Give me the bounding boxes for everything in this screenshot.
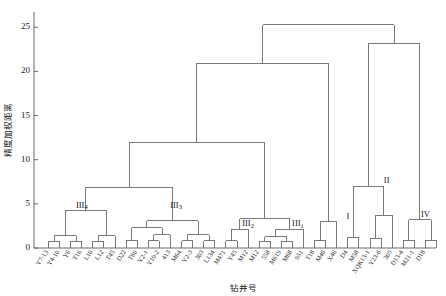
leaf-label: Y2-3 xyxy=(180,248,194,264)
dendrogram-link xyxy=(263,25,395,64)
dendrogram-link xyxy=(353,186,383,237)
y-tick-label: 10 xyxy=(21,154,31,164)
dendrogram-link xyxy=(320,222,337,248)
y-tick-label: 20 xyxy=(21,65,31,75)
dendrogram-link xyxy=(281,241,292,248)
cluster-label: III2 xyxy=(242,218,254,229)
dendrogram-link xyxy=(126,240,137,248)
dendrogram-link xyxy=(231,229,248,248)
cluster-label: III1 xyxy=(292,218,304,229)
leaf-label: M12 xyxy=(247,249,260,263)
leaf-label: L10 xyxy=(82,248,94,261)
dendrogram-link xyxy=(265,237,287,242)
dendrogram-link xyxy=(259,241,270,248)
cluster-label: IV xyxy=(421,209,431,219)
dendrogram-link xyxy=(204,241,215,248)
dendrogram-link xyxy=(276,229,304,248)
dendrogram-link xyxy=(129,143,264,219)
leaf-label: T45 xyxy=(104,248,116,261)
y-tick-label: 0 xyxy=(26,242,31,252)
leaf-label: D18 xyxy=(414,248,427,262)
dendrogram-link xyxy=(315,240,326,248)
dendrogram-link xyxy=(376,215,393,248)
dendrogram-link xyxy=(86,187,173,221)
dendrogram-link xyxy=(348,237,359,248)
dendrogram-link xyxy=(187,235,209,241)
dendrogram-chart: 0510152025 III4III3III2III1IIIIV Y7-13Y4… xyxy=(0,0,446,296)
dendrogram-links xyxy=(49,25,437,248)
dendrogram-link xyxy=(182,241,193,248)
dendrogram-link xyxy=(71,241,82,248)
leaf-label: M12 xyxy=(236,249,249,263)
axes-group: 0510152025 xyxy=(21,12,436,252)
leaf-label: L12 xyxy=(93,249,105,262)
leaf-label: Y23-6 xyxy=(367,248,383,266)
dendrogram-link xyxy=(93,241,104,248)
dendrogram-link xyxy=(65,211,107,236)
cluster-label: III4 xyxy=(76,200,89,211)
leaf-label: 951 xyxy=(293,249,304,261)
dendrogram-link xyxy=(226,241,237,248)
leaf-label-group: Y7-13Y4-10Y6T16L10L12T45D22T60Y2-1Y10-24… xyxy=(34,248,427,274)
leaf-label: X46 xyxy=(325,248,338,262)
dendrogram-link xyxy=(425,240,436,248)
dendrogram-plot: 0510152025 III4III3III2III1IIIIV Y7-13Y4… xyxy=(0,0,446,296)
leaf-label: T16 xyxy=(71,248,83,261)
dendrogram-link xyxy=(148,241,159,248)
cluster-label: II xyxy=(384,175,390,185)
x-axis-title: 钻井号 xyxy=(230,283,257,293)
leaf-label: M619 xyxy=(268,248,283,266)
dendrogram-link xyxy=(49,241,60,248)
y-tick-label: 15 xyxy=(21,110,31,120)
dendrogram-link xyxy=(403,240,414,248)
cluster-label: I xyxy=(346,211,349,221)
dendrogram-link xyxy=(369,43,420,220)
y-tick-label: 25 xyxy=(21,21,31,31)
dendrogram-link xyxy=(132,228,162,240)
cluster-label: III3 xyxy=(170,200,182,211)
leaf-label: M68 xyxy=(280,248,293,263)
dendrogram-link xyxy=(409,220,431,240)
leaf-label: Y4-10 xyxy=(45,248,61,266)
dendrogram-link xyxy=(54,236,76,242)
y-axis-title: 精度加权距离 xyxy=(3,103,13,157)
y-tick-label: 5 xyxy=(26,198,31,208)
dendrogram-link xyxy=(370,238,381,248)
leaf-label: M471 xyxy=(212,249,227,266)
leaf-label: M46 xyxy=(314,248,327,263)
leaf-label: D22 xyxy=(115,249,127,262)
